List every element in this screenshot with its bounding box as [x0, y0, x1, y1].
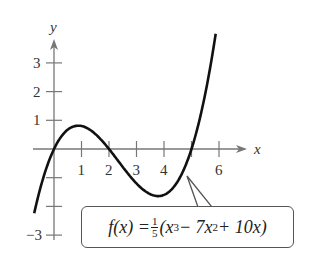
y-tick-label: 3: [33, 55, 41, 71]
function-annotation: f(x) = 1 5 (x3 − 7x2 + 10x): [81, 206, 294, 248]
x-tick-label: 4: [160, 162, 168, 178]
callout-pointer: [187, 176, 212, 207]
eq-fraction: 1 5: [151, 216, 159, 239]
y-tick-label: 2: [33, 84, 41, 100]
x-axis-label: x: [253, 141, 261, 157]
eq-lhs: f(x) =: [108, 217, 150, 238]
y-tick-label: 1: [33, 112, 41, 128]
x-tick-label: 3: [133, 162, 141, 178]
x-tick-label: 6: [215, 162, 223, 178]
y-axis-label: y: [48, 19, 57, 35]
eq-term2: − 7x: [179, 217, 213, 238]
x-tick-label: 1: [78, 162, 86, 178]
function-curve: [34, 34, 216, 214]
x-tick-label: 2: [105, 162, 113, 178]
eq-term3: + 10x): [218, 217, 267, 238]
eq-term1: (x: [159, 217, 173, 238]
y-tick-label: −3: [26, 227, 42, 243]
